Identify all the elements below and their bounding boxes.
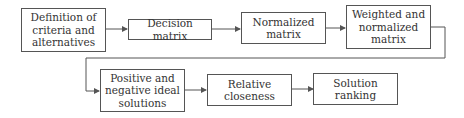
node-decision: Decision matrix — [128, 19, 212, 40]
node-line: alternatives — [31, 36, 97, 49]
node-line: solutions — [105, 97, 180, 110]
node-weighted: Weighted and normalized matrix — [346, 5, 431, 49]
node-closeness: Relative closeness — [207, 74, 292, 106]
node-line: criteria and — [31, 24, 97, 37]
node-line: Positive and — [105, 72, 180, 85]
node-line: Relative — [224, 78, 275, 91]
node-line: matrix — [352, 33, 425, 46]
node-line: normalized — [352, 21, 425, 34]
node-line: negative ideal — [105, 84, 180, 97]
node-normalized: Normalized matrix — [241, 12, 326, 44]
node-ranking: Solution ranking — [313, 73, 398, 105]
node-line: ranking — [333, 89, 377, 102]
node-definition: Definition of criteria and alternatives — [21, 8, 106, 52]
node-line: closeness — [224, 90, 275, 103]
node-ideal: Positive and negative ideal solutions — [100, 69, 185, 112]
node-line: Solution — [333, 77, 377, 90]
node-line: Normalized — [253, 16, 315, 29]
node-line: matrix — [253, 28, 315, 41]
node-line: Definition of — [31, 11, 97, 24]
node-line: Weighted and — [352, 8, 425, 21]
node-line: Decision matrix — [131, 17, 209, 42]
